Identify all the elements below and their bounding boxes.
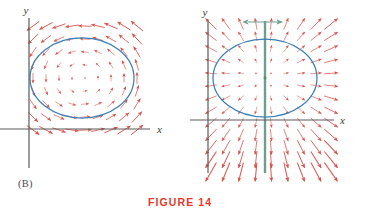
field-arrow [57,62,61,67]
field-arrow [205,73,217,74]
figure-caption: FIGURE 14 [148,196,212,208]
field-arrow [255,118,257,128]
field-arrow [122,87,126,96]
field-arrow [311,32,322,41]
field-arrow [134,99,141,110]
y-axis-label-c: y [202,6,208,18]
field-arrow [255,18,257,30]
field-arrow [104,23,117,29]
field-arrow [68,103,76,105]
figure-container: y x (B) y [0,0,368,214]
field-arrow [222,32,230,41]
field-arrow [109,88,113,95]
field-arrow [222,18,230,29]
field-arrow [222,85,231,87]
field-arrow [311,96,322,100]
field-arrow [297,140,304,154]
field-arrow [117,22,130,30]
field-arrow [205,129,216,141]
field-arrow [270,95,272,100]
field-arrow [96,63,100,67]
field-arrow [205,107,216,114]
field-arrow [283,85,288,87]
field-arrow [311,107,322,114]
field-arrow [106,36,116,42]
field-arrow [255,72,257,74]
field-arrow [222,59,231,63]
field-arrow [106,114,116,120]
field-arrow [70,64,75,67]
field-arrow [91,24,104,27]
field-arrow [107,49,114,55]
field-arrow [297,85,305,87]
field-arrow [39,23,52,30]
panel-radial-vector-field: y x Symmetry (C) [184,0,368,196]
field-arrow [205,59,217,63]
field-arrow [297,118,305,128]
field-arrow [238,32,243,41]
field-arrow [81,52,89,53]
field-arrow [131,125,143,135]
field-arrow [44,87,48,95]
field-arrow [255,107,257,115]
field-arrow [222,140,230,154]
field-arrow [57,88,61,93]
field-arrow [222,45,231,51]
field-arrow [311,140,321,154]
field-arrow [109,62,113,69]
field-arrow [324,129,337,141]
field-arrow [284,18,288,29]
rotational-field-plot: y x [0,0,184,196]
field-arrow [222,129,230,141]
field-arrow [283,73,288,74]
ellipse-curve-b [30,38,134,118]
field-arrow [283,96,288,101]
field-arrow [222,73,231,74]
field-arrow [255,59,257,64]
field-arrow [297,73,305,74]
field-arrow [297,96,305,100]
field-arrow [205,46,216,52]
field-arrow [270,107,271,115]
vector-field-arrows-c [205,18,338,181]
field-arrow [84,77,86,79]
field-arrow [83,65,88,66]
field-arrow [270,59,272,64]
field-arrow [324,73,338,74]
field-arrow [52,24,65,29]
field-arrow [284,45,289,52]
field-arrow [70,90,75,93]
field-arrow [104,127,117,133]
field-arrow [44,61,48,69]
field-arrow [238,118,243,128]
field-arrow [131,21,143,31]
field-arrow [222,107,230,114]
field-arrow [83,91,88,92]
field-arrow [68,51,76,53]
field-arrow [270,18,271,30]
field-arrow [270,72,272,74]
field-arrow [311,46,322,52]
field-arrow [297,129,305,141]
field-arrow [270,118,271,128]
field-arrow [205,96,217,100]
radial-field-plot: y x [184,0,368,196]
field-arrow [30,99,37,109]
x-axis-label-b: x [156,123,162,135]
field-arrow [30,47,37,57]
field-arrow [134,47,141,58]
field-arrow [135,59,138,70]
field-arrow [81,104,89,105]
field-arrow [94,50,101,54]
field-arrow [270,129,271,141]
field-arrow [270,85,272,87]
field-arrow [238,96,244,101]
field-arrow [238,129,243,141]
field-arrow [94,102,101,106]
field-arrow [107,101,114,107]
field-arrow [238,59,244,63]
field-arrow [255,95,257,100]
field-arrow [324,96,338,100]
field-arrow [324,85,338,87]
field-arrow [78,130,91,131]
